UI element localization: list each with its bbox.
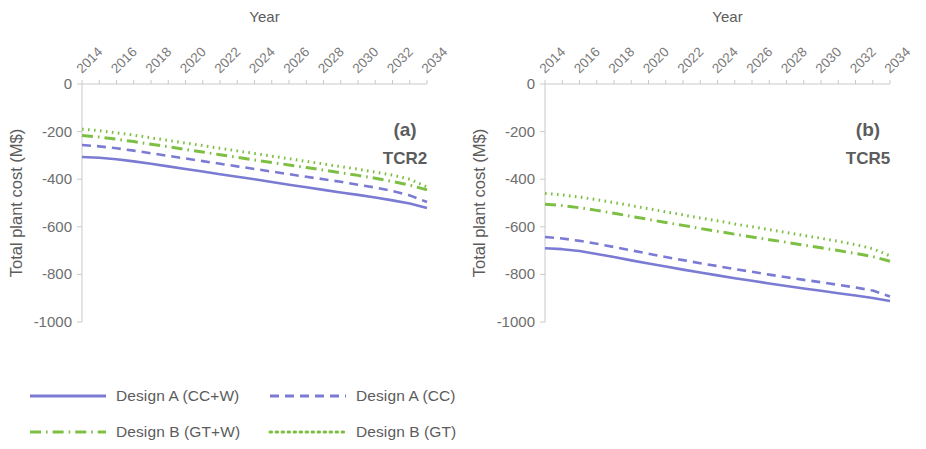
panels-row: 2014201620182020202220242026202820302032… (0, 0, 926, 375)
panel-tag: (a) (393, 119, 416, 140)
x-tick-label: 2022 (675, 44, 707, 76)
x-tick-label: 2026 (744, 44, 776, 76)
legend-line-sample (268, 425, 348, 439)
x-tick-label: 2030 (813, 44, 845, 76)
x-tick-label: 2018 (606, 44, 638, 76)
x-tick-label: 2032 (847, 44, 879, 76)
y-tick-label: -600 (505, 218, 535, 235)
chart-panel-b: 2014201620182020202220242026202820302032… (463, 0, 926, 375)
figure-legend: Design A (CC+W) Design A (CC) Design B (… (0, 378, 926, 449)
x-tick-label: 2016 (571, 44, 603, 76)
legend-line-sample (28, 425, 108, 439)
x-tick-label: 2026 (281, 44, 313, 76)
y-tick-label: -800 (505, 265, 535, 282)
legend-swatch-design-a-ccw (28, 389, 108, 403)
panel-tag: (b) (856, 119, 880, 140)
y-axis-title: Total plant cost (M$) (7, 129, 25, 278)
y-tick-label: -200 (42, 123, 72, 140)
y-tick-label: -200 (505, 123, 535, 140)
series-line-1 (545, 248, 890, 301)
legend-swatch-design-b-gt (268, 425, 348, 439)
x-axis-title: Year (712, 8, 742, 25)
x-tick-label: 2032 (384, 44, 416, 76)
y-tick-label: 0 (64, 75, 72, 92)
x-tick-label: 2024 (709, 44, 741, 76)
y-tick-label: -800 (42, 265, 72, 282)
y-tick-label: -600 (42, 218, 72, 235)
panel-subtitle: TCR2 (383, 149, 427, 168)
x-tick-label: 2028 (315, 44, 347, 76)
series-line-2 (545, 237, 890, 297)
legend-label-design-a-ccw: Design A (CC+W) (116, 387, 239, 405)
series-line-1 (82, 157, 427, 208)
series-line-4 (545, 193, 890, 255)
y-tick-label: -400 (42, 170, 72, 187)
legend-item-design-a-ccw: Design A (CC+W) (28, 384, 239, 408)
chart-panel-a: 2014201620182020202220242026202820302032… (0, 0, 463, 375)
x-tick-label: 2024 (246, 44, 278, 76)
x-tick-label: 2016 (108, 44, 140, 76)
y-tick-label: -400 (505, 170, 535, 187)
legend-label-design-b-gt: Design B (GT) (356, 423, 456, 441)
figure-container: 2014201620182020202220242026202820302032… (0, 0, 926, 449)
legend-item-design-b-gtw: Design B (GT+W) (28, 420, 240, 444)
x-tick-label: 2014 (74, 44, 106, 76)
x-tick-label: 2014 (537, 44, 569, 76)
x-tick-label: 2018 (143, 44, 175, 76)
x-tick-label: 2020 (177, 44, 209, 76)
y-tick-label: -1000 (34, 313, 72, 330)
x-axis-title: Year (249, 8, 279, 25)
x-tick-label: 2028 (778, 44, 810, 76)
y-tick-label: 0 (527, 75, 535, 92)
x-tick-label: 2020 (640, 44, 672, 76)
legend-item-design-a-cc: Design A (CC) (268, 384, 456, 408)
legend-line-sample (268, 389, 348, 403)
legend-swatch-design-b-gtw (28, 425, 108, 439)
legend-swatch-design-a-cc (268, 389, 348, 403)
plot-svg: 2014201620182020202220242026202820302032… (463, 0, 926, 375)
legend-label-design-a-cc: Design A (CC) (356, 387, 456, 405)
legend-item-design-b-gt: Design B (GT) (268, 420, 456, 444)
x-tick-label: 2030 (350, 44, 382, 76)
x-tick-label: 2022 (212, 44, 244, 76)
x-tick-label: 2034 (882, 44, 914, 76)
legend-line-sample (28, 389, 108, 403)
plot-svg: 2014201620182020202220242026202820302032… (0, 0, 463, 375)
legend-label-design-b-gtw: Design B (GT+W) (116, 423, 240, 441)
panel-subtitle: TCR5 (846, 149, 890, 168)
x-tick-label: 2034 (419, 44, 451, 76)
y-tick-label: -1000 (497, 313, 535, 330)
y-axis-title: Total plant cost (M$) (470, 129, 488, 278)
